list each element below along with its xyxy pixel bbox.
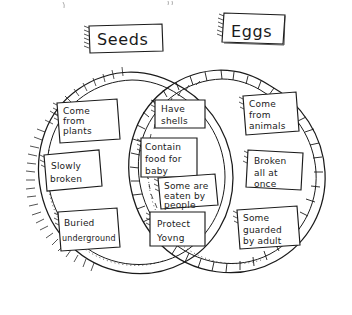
- note-line: people: [164, 200, 196, 210]
- note-line: baby: [145, 166, 169, 176]
- note-line: Have: [161, 104, 185, 114]
- venn-diagram-canvas: Seeds Eggs Come from plants Slowly: [0, 0, 352, 315]
- note-line: Come: [249, 99, 276, 109]
- note-some-guarded-by-adult[interactable]: Some guarded by adult: [233, 206, 300, 249]
- note-have-shells[interactable]: Have shells: [151, 100, 205, 128]
- note-line: broken: [50, 174, 82, 184]
- note-some-are-eaten-by-people[interactable]: Some are eaten by people: [154, 174, 218, 210]
- note-broken-all-at-once[interactable]: Broken all at once: [243, 150, 303, 190]
- note-line: from: [63, 116, 85, 126]
- note-come-from-animals[interactable]: Come from animals: [239, 92, 299, 135]
- note-line: shells: [161, 116, 188, 126]
- note-line: by adult: [243, 236, 282, 246]
- note-contain-food-for-baby[interactable]: Contain food for baby: [137, 138, 197, 177]
- note-come-from-plants[interactable]: Come from plants: [53, 99, 120, 143]
- note-line: guarded: [243, 225, 282, 235]
- note-line: food for: [145, 154, 182, 164]
- note-line: underground: [62, 234, 116, 243]
- label-seeds-hatching: [84, 26, 89, 48]
- note-protect-young[interactable]: Protect Yovng: [146, 212, 205, 246]
- note-line: from: [249, 110, 271, 120]
- label-eggs[interactable]: Eggs: [217, 13, 285, 45]
- note-line: all at: [254, 168, 278, 178]
- note-line: Some: [243, 213, 270, 223]
- note-line: Some are: [164, 181, 209, 191]
- note-slowly-broken[interactable]: Slowly broken: [40, 150, 102, 191]
- note-line: once: [254, 179, 277, 189]
- scan-artifacts: [63, 1, 173, 8]
- label-seeds[interactable]: Seeds: [84, 24, 163, 53]
- note-line: Protect: [157, 219, 190, 229]
- label-seeds-text: Seeds: [97, 30, 148, 49]
- note-line: animals: [249, 121, 286, 131]
- label-eggs-text: Eggs: [231, 22, 272, 41]
- diagram-svg: Seeds Eggs Come from plants Slowly: [0, 0, 352, 315]
- note-line: Come: [63, 106, 90, 116]
- note-line: plants: [63, 126, 92, 136]
- note-line: Slowly: [51, 161, 82, 171]
- note-line: Contain: [145, 142, 181, 152]
- note-line: Broken: [254, 156, 287, 166]
- note-buried-underground[interactable]: Buried underground: [54, 208, 120, 251]
- note-line: Buried: [64, 218, 95, 228]
- note-line: Yovng: [156, 233, 185, 243]
